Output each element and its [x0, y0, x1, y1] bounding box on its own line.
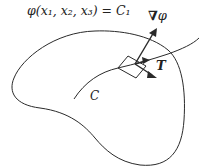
curve-label: C — [90, 89, 99, 103]
diagram-canvas — [0, 0, 201, 168]
tangent-label: T — [156, 58, 166, 73]
gradient-arrowhead — [149, 28, 157, 37]
gradient-label: ∇φ — [148, 8, 167, 23]
nabla-symbol: ∇ — [148, 8, 158, 23]
tangent-arrowhead — [142, 57, 150, 64]
surface-equation-label: φ(x₁, x₂, x₃) = C₁ — [27, 3, 131, 18]
phi-symbol: φ — [158, 8, 167, 23]
